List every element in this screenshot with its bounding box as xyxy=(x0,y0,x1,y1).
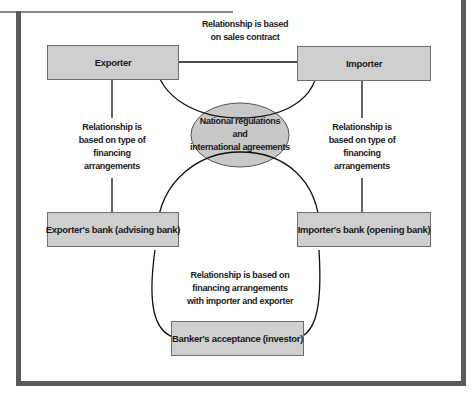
bottom-label-line-1: Relationship is based on xyxy=(180,269,300,282)
bottom-relationship-label: Relationship is based on financing arran… xyxy=(180,269,300,308)
left-label-line-1: Relationship is xyxy=(67,121,157,134)
center-line-3: international agreements xyxy=(190,141,290,154)
bankers-acceptance-label: Banker's acceptance (investor) xyxy=(172,333,303,344)
left-relationship-label: Relationship is based on type of financi… xyxy=(67,121,157,173)
top-label-line-1: Relationship is based xyxy=(190,18,300,31)
center-line-1: National regulations xyxy=(190,115,290,128)
left-label-line-4: arrangements xyxy=(67,160,157,173)
right-label-line-4: arrangements xyxy=(317,160,407,173)
bottom-label-line-3: with importer and exporter xyxy=(180,295,300,308)
top-relationship-label: Relationship is based on sales contract xyxy=(190,18,300,44)
bottom-label-line-2: financing arrangements xyxy=(180,282,300,295)
exporter-label: Exporter xyxy=(95,57,132,68)
importer-label: Importer xyxy=(346,58,382,69)
right-label-line-1: Relationship is xyxy=(317,121,407,134)
exporters-bank-box: Exporter's bank (advising bank) xyxy=(47,212,179,247)
exporters-bank-label: Exporter's bank (advising bank) xyxy=(46,224,180,235)
importers-bank-label: Importer's bank (opening bank) xyxy=(298,224,431,235)
left-label-line-3: financing xyxy=(67,147,157,160)
right-relationship-label: Relationship is based on type of financi… xyxy=(317,121,407,173)
exporter-box: Exporter xyxy=(47,45,179,80)
left-label-line-2: based on type of xyxy=(67,134,157,147)
right-label-line-2: based on type of xyxy=(317,134,407,147)
top-label-line-2: on sales contract xyxy=(190,31,300,44)
importer-box: Importer xyxy=(297,46,431,81)
center-oval-text: National regulations and international a… xyxy=(190,115,290,154)
right-label-line-3: financing xyxy=(317,147,407,160)
importers-bank-box: Importer's bank (opening bank) xyxy=(297,212,431,247)
center-line-2: and xyxy=(190,128,290,141)
bankers-acceptance-box: Banker's acceptance (investor) xyxy=(171,321,304,356)
